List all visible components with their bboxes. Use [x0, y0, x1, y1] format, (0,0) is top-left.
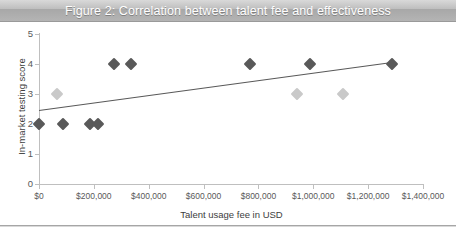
figure-title: Figure 2: Correlation between talent fee… — [0, 0, 456, 22]
scatter-point — [92, 118, 105, 131]
y-axis-tick — [35, 34, 39, 35]
y-axis-line — [39, 33, 40, 185]
scatter-point — [337, 88, 350, 101]
x-axis-tick — [94, 185, 95, 189]
x-axis-tick — [204, 185, 205, 189]
x-axis-tick-label: $1,400,000 — [388, 192, 456, 201]
scatter-point — [51, 88, 64, 101]
x-axis-tick — [423, 185, 424, 189]
scatter-point — [33, 118, 46, 131]
x-axis-tick — [149, 185, 150, 189]
x-axis-line — [39, 184, 424, 185]
scatter-point — [290, 88, 303, 101]
figure-container: Figure 2: Correlation between talent fee… — [0, 0, 456, 236]
y-axis-title: In-market testing score — [16, 37, 27, 177]
x-axis-tick — [368, 185, 369, 189]
scatter-point — [304, 58, 317, 71]
scatter-point — [386, 58, 399, 71]
scatter-point — [244, 58, 257, 71]
x-axis-tick — [313, 185, 314, 189]
scatter-point — [125, 58, 138, 71]
x-axis-title: Talent usage fee in USD — [39, 209, 424, 220]
figure-title-bar: Figure 2: Correlation between talent fee… — [0, 0, 456, 22]
y-axis-tick — [35, 94, 39, 95]
bottom-rule-shadow — [0, 226, 456, 227]
y-axis-tick — [35, 154, 39, 155]
scatter-point — [108, 58, 121, 71]
x-axis-tick — [39, 185, 40, 189]
scatter-point — [56, 118, 69, 131]
y-axis-tick-label: 0 — [16, 179, 33, 189]
y-axis-tick — [35, 64, 39, 65]
x-axis-tick — [258, 185, 259, 189]
